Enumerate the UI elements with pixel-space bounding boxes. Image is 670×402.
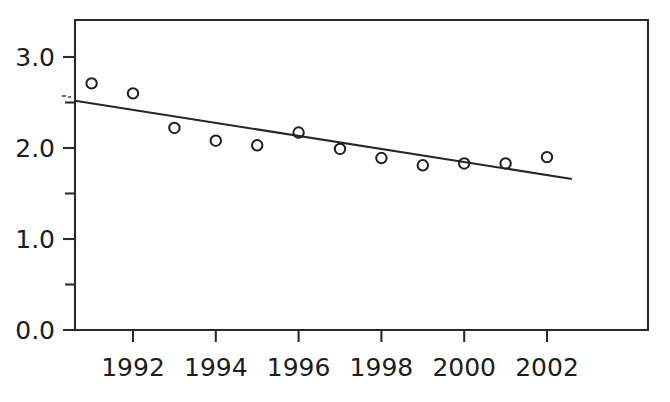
y-axis-tick-label: 3.0 — [15, 43, 55, 72]
data-point-marker — [335, 144, 345, 154]
data-point-marker — [376, 153, 386, 163]
y-axis-tick-label: 2.0 — [15, 134, 55, 163]
y-axis-tick-labels: 0.01.02.03.0 — [15, 43, 55, 345]
data-point-marker — [86, 78, 96, 88]
x-axis-tick-label: 2002 — [515, 353, 579, 382]
scan-artifact-speck — [62, 95, 71, 98]
plot-frame — [75, 20, 648, 330]
x-axis-tick-label: 1994 — [184, 353, 248, 382]
data-point-marker — [252, 140, 262, 150]
x-axis-tick-label: 1996 — [267, 353, 331, 382]
x-axis-tick-label: 1992 — [101, 353, 165, 382]
data-point-marker — [128, 88, 138, 98]
plot-box-border — [75, 20, 648, 330]
y-axis-tick-label: 1.0 — [15, 225, 55, 254]
regression-trend-line — [75, 101, 572, 179]
data-point-marker — [418, 160, 428, 170]
x-axis-tick-marks — [133, 330, 547, 342]
y-axis-tick-label: 0.0 — [15, 316, 55, 345]
data-point-marker — [500, 158, 510, 168]
data-point-marker — [169, 123, 179, 133]
chart-figure: 0.01.02.03.0 199219941996199820002002 — [0, 0, 670, 402]
x-axis-tick-label: 1998 — [350, 353, 414, 382]
data-point-marker — [211, 136, 221, 146]
x-axis-tick-label: 2000 — [432, 353, 496, 382]
trend-line-group — [75, 101, 572, 179]
scatter-plot-svg: 0.01.02.03.0 199219941996199820002002 — [0, 0, 670, 402]
x-axis-tick-labels: 199219941996199820002002 — [101, 353, 579, 382]
data-point-marker — [542, 152, 552, 162]
data-point-markers — [86, 78, 552, 170]
